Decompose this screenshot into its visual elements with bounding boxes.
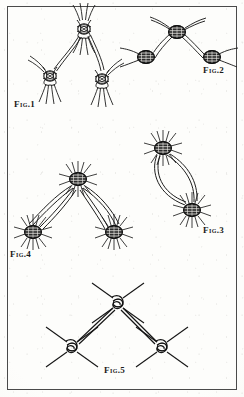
figure-label-fig1: Fig.1 (14, 100, 35, 109)
figure-label-fig2: Fig.2 (203, 66, 224, 75)
figure-label-fig5: Fig.5 (104, 366, 125, 375)
figure-4-drawing (14, 161, 133, 250)
figure-3-drawing (144, 130, 211, 228)
illustration-plate: Fig.1 Fig.2 Fig.3 Fig.4 Fig.5 (0, 0, 244, 397)
figure-1-drawing (28, 3, 124, 107)
figure-drawings (0, 0, 244, 397)
figure-label-fig3: Fig.3 (203, 226, 224, 235)
figure-2-drawing (120, 17, 238, 67)
figure-label-fig4: Fig.4 (10, 250, 31, 259)
figure-5-drawing (46, 283, 188, 367)
